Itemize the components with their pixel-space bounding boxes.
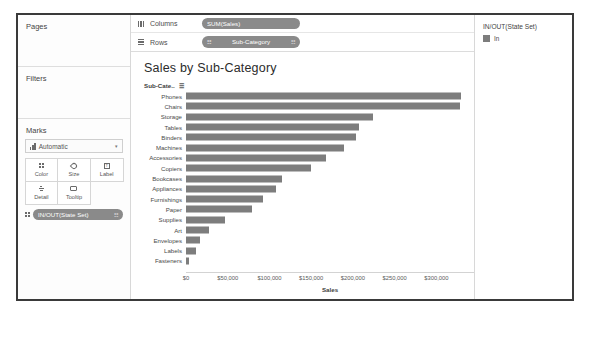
bar-mark[interactable] bbox=[186, 103, 460, 110]
bar-row[interactable]: Bookcases bbox=[131, 173, 474, 183]
bar-row[interactable]: Art bbox=[131, 225, 474, 235]
bar-row[interactable]: Phones bbox=[131, 91, 474, 101]
rows-pill-menu-icon[interactable]: ☷ bbox=[291, 39, 295, 45]
bar-category-label: Fasteners bbox=[131, 257, 186, 264]
bar-row[interactable]: Envelopes bbox=[131, 235, 474, 245]
rows-icon bbox=[138, 39, 144, 45]
bar-mark[interactable] bbox=[186, 175, 282, 182]
mark-type-selector[interactable]: Automatic ▾ bbox=[25, 139, 123, 153]
bar-row[interactable]: Supplies bbox=[131, 215, 474, 225]
x-axis-tick-label: $200,000 bbox=[341, 275, 365, 281]
bar-row[interactable]: Appliances bbox=[131, 184, 474, 194]
marks-size-button[interactable]: Size bbox=[57, 158, 91, 182]
mark-type-label: Automatic bbox=[39, 143, 68, 150]
legend-item[interactable]: In bbox=[483, 35, 564, 42]
bar-mark[interactable] bbox=[186, 227, 209, 234]
pages-shelf[interactable]: Pages bbox=[18, 15, 130, 67]
bar-mark[interactable] bbox=[186, 124, 359, 131]
bar-row[interactable]: Furnishings bbox=[131, 194, 474, 204]
bar-row[interactable]: Machines bbox=[131, 142, 474, 152]
bar-category-label: Supplies bbox=[131, 216, 186, 223]
left-sidebar: Pages Filters Marks Automatic ▾ bbox=[18, 15, 131, 299]
bar-mark[interactable] bbox=[186, 237, 200, 244]
bar-mark[interactable] bbox=[186, 216, 225, 223]
bar-mark[interactable] bbox=[186, 257, 189, 264]
legend-item-label: In bbox=[494, 35, 499, 42]
columns-pill-sum-sales[interactable]: SUM(Sales) bbox=[202, 18, 300, 29]
filters-shelf[interactable]: Filters bbox=[18, 67, 130, 119]
marks-tooltip-button[interactable]: Tooltip bbox=[57, 181, 91, 205]
row-field-header[interactable]: Sub-Cate.. ☰ bbox=[131, 82, 474, 91]
rows-shelf[interactable]: Rows ☷ Sub-Category ☷ bbox=[131, 33, 474, 51]
bar-mark[interactable] bbox=[186, 154, 326, 161]
bar-mark[interactable] bbox=[186, 134, 356, 141]
bar-mark[interactable] bbox=[186, 93, 461, 100]
bar-track bbox=[186, 204, 474, 214]
bar-track bbox=[186, 173, 474, 183]
columns-shelf-label: Columns bbox=[150, 20, 196, 27]
marks-label-label: Label bbox=[100, 171, 114, 177]
marks-detail-button[interactable]: Detail bbox=[25, 181, 59, 205]
rows-shelf-label: Rows bbox=[150, 39, 196, 46]
bar-mark[interactable] bbox=[186, 113, 373, 120]
marks-buttons-grid: Color Size T Label Detail bbox=[25, 158, 123, 204]
bar-row[interactable]: Paper bbox=[131, 204, 474, 214]
chevron-down-icon[interactable]: ▾ bbox=[115, 143, 118, 149]
bar-row[interactable]: Copiers bbox=[131, 163, 474, 173]
marks-card-title: Marks bbox=[18, 119, 130, 139]
bar-mark[interactable] bbox=[186, 165, 311, 172]
label-icon: T bbox=[104, 162, 110, 170]
marks-color-button[interactable]: Color bbox=[25, 158, 59, 182]
legend-items: In bbox=[483, 35, 564, 42]
dimension-icon: ☷ bbox=[207, 39, 211, 45]
detail-icon bbox=[39, 185, 44, 193]
rows-pill-sub-category[interactable]: ☷ Sub-Category ☷ bbox=[202, 36, 300, 47]
page-title: Sales by Sub-Category bbox=[131, 52, 474, 82]
x-axis-tick-label: $50,000 bbox=[217, 275, 238, 281]
marks-field-pill-in-out-state-set[interactable]: IN/OUT(State Set) ☷ bbox=[33, 209, 123, 220]
marks-label-button[interactable]: T Label bbox=[90, 158, 124, 182]
tableau-worksheet-window: Pages Filters Marks Automatic ▾ bbox=[16, 13, 574, 301]
bar-category-label: Furnishings bbox=[131, 196, 186, 203]
marks-card: Marks Automatic ▾ Color Size bbox=[18, 119, 130, 227]
x-axis-ticks: $0$50,000$100,000$150,000$200,000$250,00… bbox=[186, 273, 474, 285]
legend-title: IN/OUT(State Set) bbox=[483, 23, 564, 30]
x-axis-tick-label: $0 bbox=[183, 275, 189, 281]
marks-detail-label: Detail bbox=[34, 194, 48, 200]
bar-track bbox=[186, 215, 474, 225]
bar-track bbox=[186, 101, 474, 111]
x-axis-area: $0$50,000$100,000$150,000$200,000$250,00… bbox=[131, 271, 474, 299]
bar-mark[interactable] bbox=[186, 206, 252, 213]
filters-shelf-dropzone[interactable] bbox=[18, 88, 130, 118]
sort-icon[interactable]: ☰ bbox=[179, 82, 184, 89]
pages-shelf-dropzone[interactable] bbox=[18, 36, 130, 66]
row-field-header-label: Sub-Cate.. bbox=[144, 82, 175, 89]
bar-track bbox=[186, 122, 474, 132]
bar-row[interactable]: Tables bbox=[131, 122, 474, 132]
bar-category-label: Copiers bbox=[131, 165, 186, 172]
marks-empty-slot bbox=[90, 181, 124, 205]
bar-track bbox=[186, 225, 474, 235]
rows-pill-label: Sub-Category bbox=[232, 38, 270, 45]
bar-row[interactable]: Fasteners bbox=[131, 256, 474, 266]
bar-mark[interactable] bbox=[186, 144, 344, 151]
columns-shelf[interactable]: Columns SUM(Sales) bbox=[131, 15, 474, 33]
bar-row[interactable]: Accessories bbox=[131, 153, 474, 163]
bar-mark[interactable] bbox=[186, 185, 276, 192]
columns-pill-label: SUM(Sales) bbox=[207, 20, 240, 27]
bar-row[interactable]: Labels bbox=[131, 245, 474, 255]
set-icon bbox=[25, 212, 30, 217]
bar-row[interactable]: Storage bbox=[131, 112, 474, 122]
bar-row[interactable]: Binders bbox=[131, 132, 474, 142]
bar-track bbox=[186, 153, 474, 163]
x-axis-tick-label: $100,000 bbox=[257, 275, 281, 281]
x-axis-title: Sales bbox=[186, 285, 474, 299]
bar-category-label: Appliances bbox=[131, 185, 186, 192]
x-axis-tick-label: $250,000 bbox=[383, 275, 407, 281]
bar-row[interactable]: Chairs bbox=[131, 101, 474, 111]
bar-track bbox=[186, 184, 474, 194]
bar-mark[interactable] bbox=[186, 247, 196, 254]
pill-menu-icon[interactable]: ☷ bbox=[114, 212, 118, 218]
sidebar-filler bbox=[18, 227, 130, 299]
bar-mark[interactable] bbox=[186, 196, 263, 203]
